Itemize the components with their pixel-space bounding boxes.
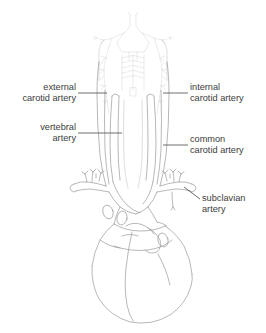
cranial-vessels — [93, 12, 173, 60]
label-vertebral-line2: artery — [0, 133, 76, 144]
label-subclavian-artery: subclavian artery — [202, 193, 266, 216]
label-internal-carotid-line1: internal — [190, 82, 266, 93]
left-subclavian-region — [70, 169, 109, 192]
label-vertebral-artery: vertebral artery — [0, 122, 76, 145]
cervical-spine — [122, 55, 144, 96]
label-external-carotid-line1: external — [0, 82, 76, 93]
label-vertebral-line1: vertebral — [0, 122, 76, 133]
label-internal-carotid-line2: carotid artery — [190, 93, 266, 104]
label-common-carotid-artery: common carotid artery — [190, 134, 266, 157]
label-internal-carotid-artery: internal carotid artery — [190, 82, 266, 105]
label-common-carotid-line2: carotid artery — [190, 145, 266, 156]
external-carotid-branches — [98, 47, 109, 114]
internal-carotid-branches — [157, 47, 168, 114]
heart — [92, 223, 192, 323]
trachea-midline — [124, 100, 143, 188]
label-external-carotid-line2: carotid artery — [0, 93, 76, 104]
label-subclavian-line1: subclavian — [202, 193, 266, 204]
label-subclavian-line2: artery — [202, 204, 266, 215]
anatomy-figure — [0, 0, 266, 333]
label-common-carotid-line1: common — [190, 134, 266, 145]
leader-subclavian — [184, 187, 200, 199]
label-external-carotid-artery: external carotid artery — [0, 82, 76, 105]
